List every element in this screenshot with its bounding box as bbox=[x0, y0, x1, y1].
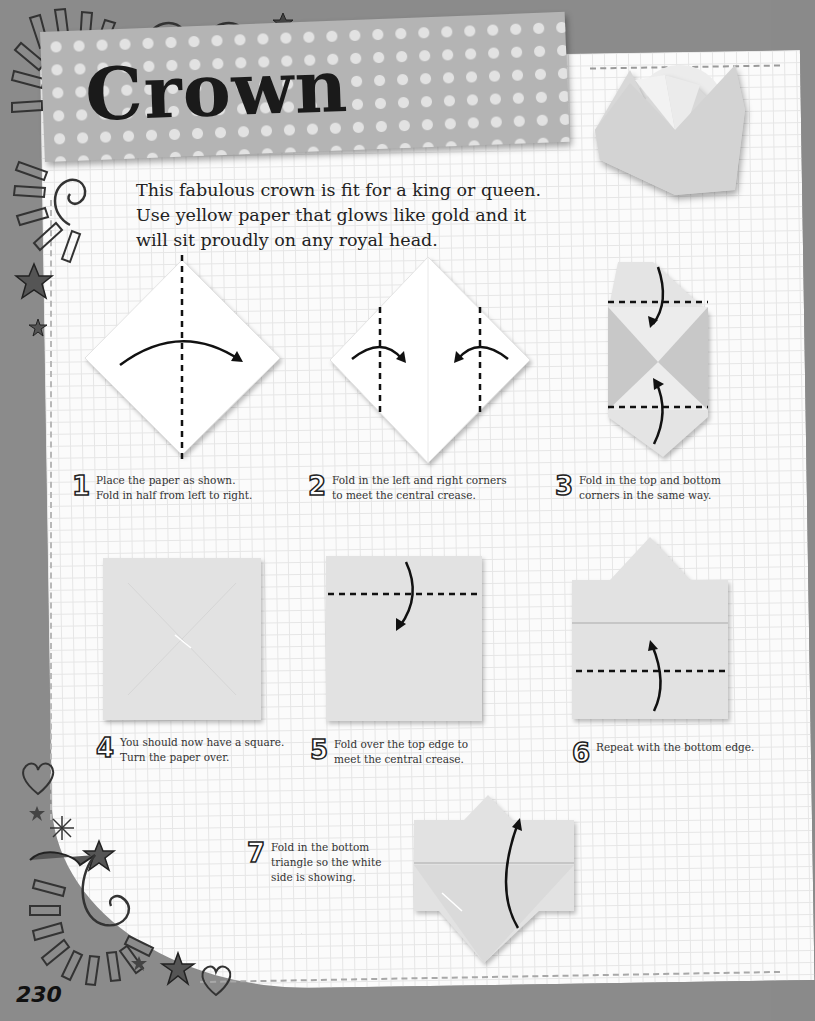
step-5-caption: 5 Fold over the top edge tomeet the cent… bbox=[310, 737, 468, 767]
step-1-diagram bbox=[85, 255, 285, 465]
star-icon bbox=[160, 952, 196, 986]
star-icon bbox=[14, 262, 54, 300]
step-1-caption: 1 Place the paper as shown.Fold in half … bbox=[72, 473, 252, 503]
star-icon bbox=[130, 955, 148, 973]
finished-crown-image bbox=[585, 55, 755, 205]
step-number: 1 bbox=[72, 473, 90, 499]
star-icon bbox=[28, 805, 46, 823]
step-2-diagram bbox=[330, 255, 535, 465]
page-title: Crown bbox=[84, 43, 349, 137]
step-number: 2 bbox=[308, 473, 326, 499]
step-5-diagram bbox=[326, 556, 486, 724]
step-number: 5 bbox=[310, 737, 328, 763]
step-number: 7 bbox=[247, 840, 265, 866]
step-2-caption: 2 Fold in the left and right cornersto m… bbox=[308, 473, 507, 503]
step-6-caption: 6 Repeat with the bottom edge. bbox=[572, 740, 754, 766]
step-number: 4 bbox=[96, 735, 114, 761]
asterisk-icon bbox=[50, 816, 74, 840]
page-number: 230 bbox=[16, 982, 62, 1007]
step-7-diagram bbox=[414, 793, 576, 961]
step-7-caption: 7 Fold in the bottomtriangle so the whit… bbox=[247, 840, 381, 885]
step-4-caption: 4 You should now have a square.Turn the … bbox=[96, 735, 284, 765]
intro-line: will sit proudly on any royal head. bbox=[136, 228, 556, 253]
intro-line: This fabulous crown is fit for a king or… bbox=[136, 178, 556, 203]
step-3-diagram bbox=[608, 262, 710, 452]
intro-text: This fabulous crown is fit for a king or… bbox=[136, 178, 556, 253]
step-4-diagram bbox=[103, 558, 265, 723]
intro-line: Use yellow paper that glows like gold an… bbox=[136, 203, 556, 228]
heart-icon bbox=[18, 758, 58, 798]
spiral-icon bbox=[45, 160, 95, 230]
step-number: 6 bbox=[572, 740, 590, 766]
star-icon bbox=[27, 318, 49, 338]
heart-icon bbox=[198, 962, 234, 998]
spiral-icon bbox=[25, 840, 165, 1000]
step-6-diagram bbox=[572, 533, 732, 723]
step-number: 3 bbox=[555, 473, 573, 499]
step-3-caption: 3 Fold in the top and bottomcorners in t… bbox=[555, 473, 721, 503]
